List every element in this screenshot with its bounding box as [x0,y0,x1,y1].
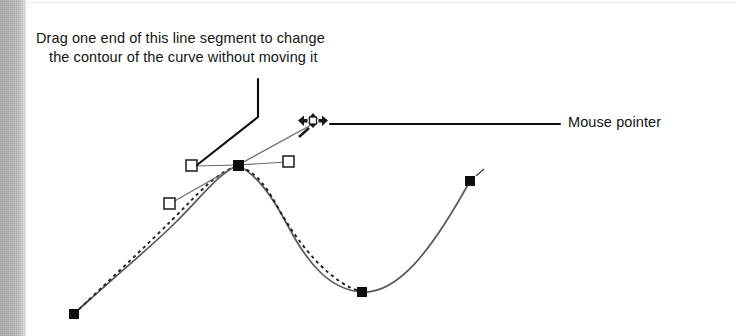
caption-leader-line [197,79,258,165]
move-cursor-icon[interactable] [298,113,328,137]
move-cursor-right-arrow [319,116,329,127]
handle-line-dragged [238,125,311,165]
hollow-square-handle-left[interactable] [186,160,197,171]
hollow-square-handle-right[interactable] [283,156,294,167]
mouse-pointer-label: Mouse pointer [568,113,661,132]
anchor-end-tick [476,169,484,176]
handle-line-right [238,162,287,165]
dashed-curve-path [74,166,362,314]
hollow-square-handle-lower[interactable] [164,198,175,209]
handle-line-left [194,165,238,166]
figure-caption: Drag one end of this line segment to cha… [36,29,325,67]
figure-caption-line-1: Drag one end of this line segment to cha… [36,30,325,46]
anchor-start-tick [80,299,90,308]
move-cursor-center-handle [310,117,317,124]
solid-curve-path [74,165,470,314]
filled-square-anchor-end[interactable] [465,176,475,186]
figure-caption-line-2: the contour of the curve without moving … [36,48,325,67]
filled-square-anchor-selected[interactable] [233,160,244,171]
handle-line-lower [171,165,238,203]
filled-square-anchor-valley[interactable] [357,287,367,297]
move-cursor-left-arrow [298,116,308,127]
figure-page: Drag one end of this line segment to cha… [0,0,736,336]
filled-square-anchor-start[interactable] [69,309,79,319]
